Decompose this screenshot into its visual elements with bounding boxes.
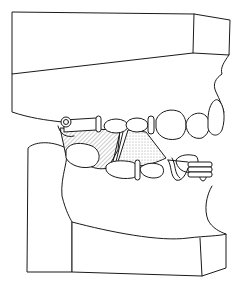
upper-teeth (104, 100, 224, 140)
upper-cast-base (12, 12, 230, 122)
dental-model-figure: Dental cast model in occlusion, lateral … (0, 0, 237, 285)
